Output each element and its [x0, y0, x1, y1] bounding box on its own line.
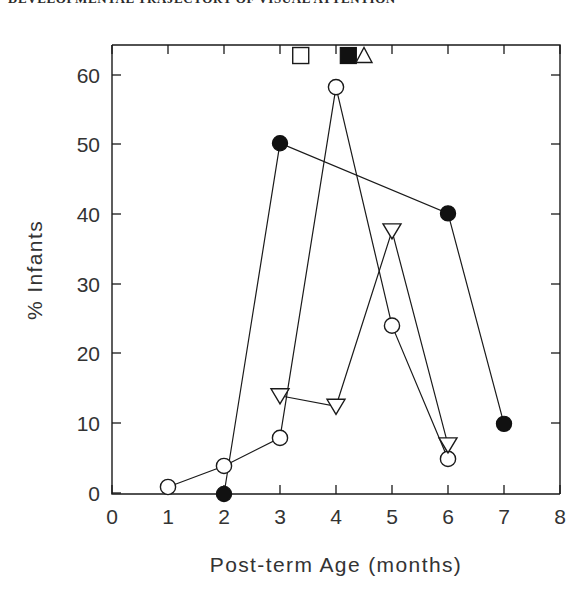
open-triangle-series [271, 224, 457, 453]
open-circle-series [160, 79, 455, 494]
y-axis-ticks [112, 75, 121, 493]
filled-circle-series-point [440, 206, 455, 221]
plot-frame [112, 45, 560, 494]
open-circle-series-point [272, 430, 287, 445]
y-tick-label: 10 [77, 412, 100, 435]
y-tick-label: 0 [88, 482, 100, 505]
open-circle-series-point [216, 458, 231, 473]
open-circle-series-point [160, 479, 175, 494]
x-axis-ticks [112, 485, 560, 494]
data-series-layer [160, 79, 511, 501]
y-axis-ticks-right [551, 75, 560, 423]
y-tick-labels: 0 10 20 30 40 50 60 [77, 64, 100, 505]
y-tick-label: 50 [77, 133, 100, 156]
y-tick-label: 40 [77, 203, 100, 226]
y-axis-title: % Infants [23, 220, 46, 320]
open-square-marker [293, 48, 309, 64]
filled-circle-series-point [496, 416, 511, 431]
x-tick-label: 4 [330, 505, 342, 528]
filled-circle-series-point [272, 136, 287, 151]
figure-container: DEVELOPMENTAL TRAJECTORY OF VISUAL ATTEN… [0, 0, 585, 599]
x-tick-label: 1 [162, 505, 174, 528]
y-tick-label: 60 [77, 64, 100, 87]
x-tick-label: 8 [554, 505, 566, 528]
open-circle-series-line [168, 87, 448, 487]
scatter-line-plot: 0 10 20 30 40 50 60 0 1 2 3 4 5 6 7 8 Po… [0, 0, 585, 599]
open-triangle-series-point [327, 399, 345, 414]
y-tick-label: 30 [77, 273, 100, 296]
x-tick-label: 2 [218, 505, 230, 528]
legend-marker-layer [293, 48, 372, 64]
open-triangle-series-line [280, 231, 448, 445]
x-tick-label: 3 [274, 505, 286, 528]
running-header: DEVELOPMENTAL TRAJECTORY OF VISUAL ATTEN… [0, 0, 585, 9]
open-circle-series-point [328, 79, 343, 94]
x-tick-label: 5 [386, 505, 398, 528]
filled-square-marker [340, 48, 356, 64]
x-tick-label: 7 [498, 505, 510, 528]
top-axis-ticks [112, 45, 560, 54]
y-tick-label: 20 [77, 342, 100, 365]
filled-circle-series-point [216, 486, 231, 501]
x-tick-labels: 0 1 2 3 4 5 6 7 8 [106, 505, 566, 528]
open-circle-series-point [384, 318, 399, 333]
running-header-text: DEVELOPMENTAL TRAJECTORY OF VISUAL ATTEN… [8, 0, 396, 7]
x-axis-title: Post-term Age (months) [210, 553, 463, 576]
x-tick-label: 6 [442, 505, 454, 528]
open-triangle-marker [356, 48, 372, 63]
open-triangle-series-point [383, 224, 401, 239]
x-tick-label: 0 [106, 505, 118, 528]
